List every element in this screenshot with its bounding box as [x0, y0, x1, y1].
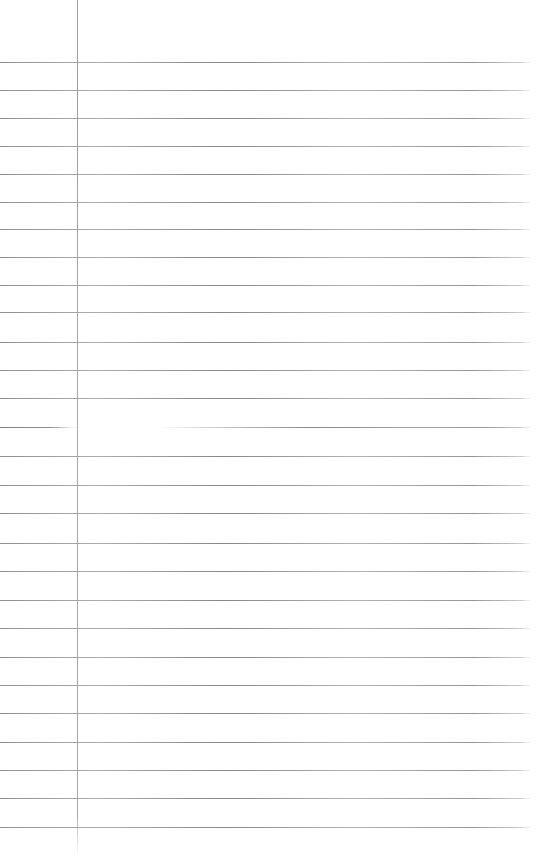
notebook-page [0, 0, 537, 865]
rule-line [0, 398, 537, 399]
rule-line [0, 146, 537, 147]
rule-line [0, 798, 537, 799]
rule-line [0, 229, 537, 230]
rule-line [0, 713, 537, 714]
margin-line [77, 0, 78, 856]
rule-line [0, 827, 537, 828]
rule-line [0, 770, 537, 771]
rule-line [0, 456, 537, 457]
rule-line [0, 513, 537, 514]
rule-line [0, 657, 537, 658]
rule-line [0, 485, 537, 486]
rule-line [0, 342, 537, 343]
rule-line [0, 370, 537, 371]
rule-line [0, 62, 537, 63]
rule-line [0, 285, 537, 286]
rule-line [0, 685, 537, 686]
rule-line [0, 257, 537, 258]
glare-spot [28, 411, 208, 449]
rule-line [0, 174, 537, 175]
rule-line [0, 312, 537, 313]
rule-line [0, 600, 537, 601]
rule-line [0, 571, 537, 572]
rule-line [0, 427, 537, 428]
rule-line [0, 628, 537, 629]
rule-line [0, 118, 537, 119]
rule-line [0, 202, 537, 203]
rule-line [0, 742, 537, 743]
rule-line [0, 543, 537, 544]
rule-line [0, 90, 537, 91]
